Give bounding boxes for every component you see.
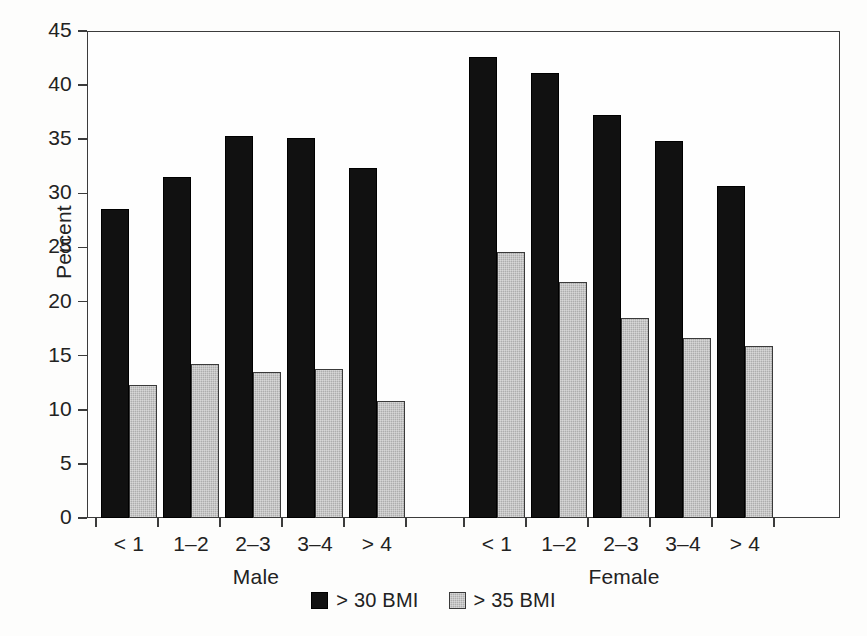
legend-swatch-icon <box>311 592 328 609</box>
x-tick-mark <box>773 518 775 527</box>
bar-female-23-s1 <box>621 318 649 518</box>
y-tick-label: 10 <box>20 397 72 421</box>
bar-female-34-s0 <box>655 141 683 518</box>
bar-female-34-s1 <box>683 338 711 518</box>
x-tick-mark <box>587 518 589 527</box>
x-axis-ticks: < 11–22–33–4> 4Male< 11–22–33–4> 4Female <box>87 518 840 598</box>
x-tick-label: > 4 <box>342 532 412 556</box>
bar-female-12-s0 <box>531 73 559 518</box>
bar-male-1-s1 <box>129 385 157 518</box>
y-tick-mark <box>78 517 87 519</box>
legend-item-1: > 35 BMI <box>449 589 556 612</box>
x-tick-mark <box>219 518 221 527</box>
y-tick-label: 30 <box>20 180 72 204</box>
y-tick-label: 0 <box>20 505 72 529</box>
x-tick-mark <box>405 518 407 527</box>
bar-female-4-s0 <box>717 186 745 518</box>
bar-male-34-s0 <box>287 138 315 518</box>
x-tick-label: 2–3 <box>586 532 656 556</box>
bar-female-4-s1 <box>745 346 773 518</box>
bar-male-23-s1 <box>253 372 281 518</box>
y-tick-label: 40 <box>20 72 72 96</box>
x-tick-label: < 1 <box>94 532 164 556</box>
bar-male-12-s0 <box>163 177 191 518</box>
bar-female-23-s0 <box>593 115 621 518</box>
y-tick-mark <box>78 301 87 303</box>
x-tick-label: 2–3 <box>218 532 288 556</box>
y-tick-label: 25 <box>20 234 72 258</box>
legend-swatch-icon <box>449 592 466 609</box>
x-tick-mark <box>525 518 527 527</box>
bar-male-12-s1 <box>191 364 219 518</box>
x-tick-label: 3–4 <box>280 532 350 556</box>
y-tick-mark <box>78 247 87 249</box>
bars-layer <box>87 31 840 518</box>
y-tick-mark <box>78 409 87 411</box>
bar-male-34-s1 <box>315 369 343 518</box>
bar-chart-figure: Percent 051015202530354045 < 11–22–33–4>… <box>0 0 867 636</box>
y-tick-mark <box>78 30 87 32</box>
legend-label: > 35 BMI <box>474 589 556 612</box>
x-group-label-female: Female <box>534 565 714 589</box>
bar-male-4-s1 <box>377 401 405 518</box>
y-tick-mark <box>78 463 87 465</box>
x-tick-mark <box>463 518 465 527</box>
legend-item-0: > 30 BMI <box>311 589 418 612</box>
x-tick-mark <box>649 518 651 527</box>
y-tick-mark <box>78 84 87 86</box>
legend-label: > 30 BMI <box>336 589 418 612</box>
bar-female-12-s1 <box>559 282 587 518</box>
x-group-label-male: Male <box>166 565 346 589</box>
y-tick-label: 15 <box>20 343 72 367</box>
y-tick-label: 20 <box>20 289 72 313</box>
x-tick-label: > 4 <box>710 532 780 556</box>
chart-legend: > 30 BMI> 35 BMI <box>0 589 867 612</box>
x-tick-mark <box>95 518 97 527</box>
bar-female-1-s1 <box>497 252 525 518</box>
x-tick-label: 3–4 <box>648 532 718 556</box>
bar-male-23-s0 <box>225 136 253 518</box>
x-tick-mark <box>343 518 345 527</box>
y-tick-mark <box>78 355 87 357</box>
x-tick-mark <box>281 518 283 527</box>
bar-male-4-s0 <box>349 168 377 518</box>
bar-female-1-s0 <box>469 57 497 518</box>
x-tick-label: 1–2 <box>156 532 226 556</box>
y-tick-label: 45 <box>20 18 72 42</box>
x-tick-mark <box>157 518 159 527</box>
x-tick-label: < 1 <box>462 532 532 556</box>
x-tick-mark <box>711 518 713 527</box>
y-tick-mark <box>78 193 87 195</box>
bar-male-1-s0 <box>101 209 129 519</box>
y-tick-label: 5 <box>20 451 72 475</box>
y-tick-label: 35 <box>20 126 72 150</box>
y-tick-mark <box>78 138 87 140</box>
x-tick-label: 1–2 <box>524 532 594 556</box>
